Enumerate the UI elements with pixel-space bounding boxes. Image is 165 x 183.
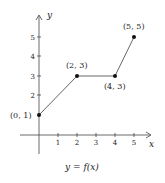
chart-caption: y = f(x) [64, 162, 99, 172]
y-tick-labels: 2 3 4 5 [31, 34, 36, 100]
function-line [39, 37, 134, 115]
svg-text:3: 3 [94, 139, 98, 147]
svg-text:2: 2 [75, 139, 79, 147]
x-axis-label: x [149, 139, 154, 149]
svg-text:(4, 3): (4, 3) [104, 82, 126, 91]
svg-text:3: 3 [31, 73, 35, 81]
svg-text:1: 1 [56, 139, 60, 147]
svg-text:(2, 3): (2, 3) [66, 61, 88, 70]
x-tick-labels: 1 2 3 4 5 [56, 139, 136, 147]
svg-text:5: 5 [31, 34, 35, 42]
point-5-5 [132, 35, 136, 39]
svg-text:2: 2 [31, 92, 35, 100]
point-2-3 [75, 74, 79, 78]
function-graph: 1 2 3 4 5 2 3 4 5 x y (0, 1) (2, 3) (4, … [0, 0, 165, 183]
svg-text:5: 5 [132, 139, 136, 147]
svg-text:4: 4 [31, 53, 36, 61]
y-axis-label: y [46, 10, 53, 20]
point-0-1 [37, 113, 41, 117]
svg-text:(5, 5): (5, 5) [123, 22, 145, 31]
svg-text:4: 4 [113, 139, 118, 147]
svg-text:(0, 1): (0, 1) [10, 111, 32, 120]
point-4-3 [113, 74, 117, 78]
